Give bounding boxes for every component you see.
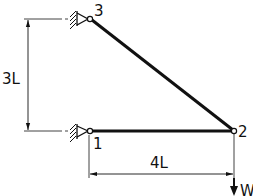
- pin-support-icon: [70, 11, 93, 29]
- member-3-2: [92, 20, 233, 130]
- node-label-3: 3: [94, 2, 104, 20]
- truss-diagram: 3L 4L W 3 1 2: [0, 0, 253, 196]
- load-label: W: [240, 182, 253, 196]
- joint-icon: [231, 128, 236, 133]
- dimension-vertical: [24, 19, 68, 131]
- node-label-2: 2: [238, 123, 248, 141]
- dimension-label-vertical: 3L: [2, 70, 21, 88]
- dimension-label-horizontal: 4L: [150, 154, 169, 172]
- node-label-1: 1: [93, 135, 103, 153]
- load-arrow-icon: [230, 178, 238, 196]
